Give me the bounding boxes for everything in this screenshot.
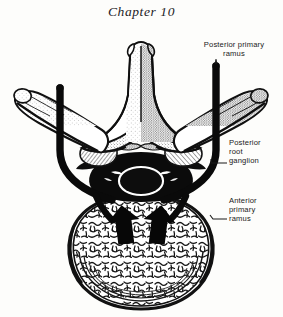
vertebral-body	[60, 190, 225, 315]
label-posterior-primary-ramus: Posterior primary ramus	[186, 40, 282, 58]
nerve-left-terminus	[56, 84, 63, 91]
label-posterior-root-ganglion: Posterior root ganglion	[229, 138, 261, 166]
spinous-process	[101, 40, 185, 148]
figure-page: Chapter 10	[0, 0, 283, 317]
label-anterior-primary-ramus: Anterior primary ramus	[229, 196, 257, 224]
